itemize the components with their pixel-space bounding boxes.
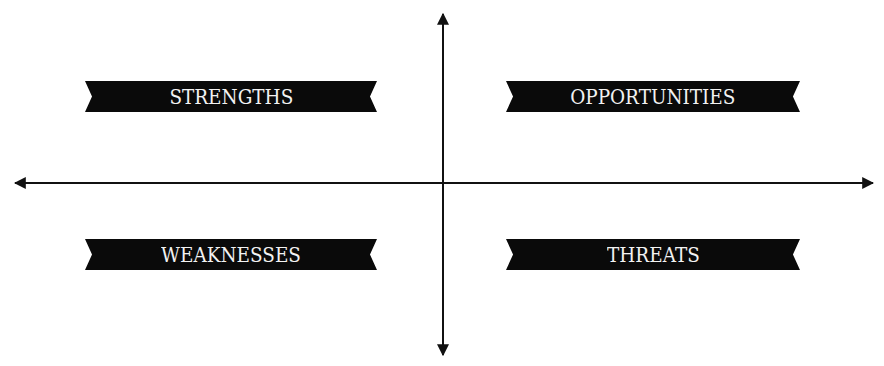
strengths-label: STRENGTHS	[169, 87, 293, 107]
threats-banner: THREATS	[506, 239, 800, 270]
opportunities-label: OPPORTUNITIES	[570, 87, 735, 107]
threats-label: THREATS	[607, 245, 700, 265]
weaknesses-banner: WEAKNESSES	[85, 239, 377, 270]
weaknesses-label: WEAKNESSES	[161, 245, 301, 265]
axes	[0, 0, 884, 366]
opportunities-banner: OPPORTUNITIES	[506, 81, 800, 112]
strengths-banner: STRENGTHS	[85, 81, 377, 112]
